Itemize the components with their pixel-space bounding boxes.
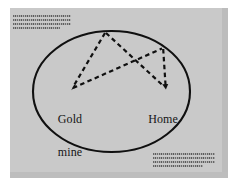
scribble-line — [13, 27, 60, 29]
label-gold-mine: Gold mine — [44, 92, 96, 180]
illegible-text-block-top-left — [13, 15, 71, 31]
route-leg-goldmine-to-eastridge — [73, 49, 162, 89]
scribble-line — [13, 23, 71, 25]
label-home-line1: Home — [139, 114, 187, 125]
figure-root: Gold mine Home — [0, 0, 234, 182]
label-gold-mine-line2: mine — [44, 147, 96, 158]
scribble-line — [153, 153, 215, 155]
label-gold-mine-line1: Gold — [44, 114, 96, 125]
scribble-line — [153, 165, 203, 167]
illegible-text-block-bottom-right — [153, 153, 215, 169]
label-home: Home — [139, 92, 187, 147]
scribble-line — [13, 15, 71, 17]
scribble-line — [153, 157, 215, 159]
scribble-line — [153, 161, 215, 163]
arrowhead-home — [162, 84, 168, 90]
route-leg-eastridge-to-home — [163, 49, 165, 86]
route-leg-peak-to-goldmine — [73, 33, 105, 87]
scribble-line — [13, 19, 71, 21]
